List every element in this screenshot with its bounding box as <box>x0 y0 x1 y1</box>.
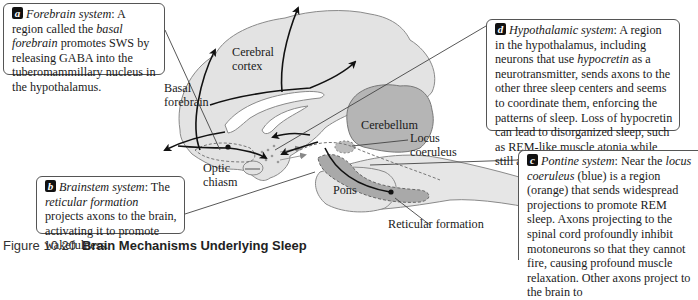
badge-a: a <box>12 7 23 19</box>
callout-b-text-1: : The <box>145 180 170 194</box>
label-cerebral-cortex-line2: cortex <box>232 60 274 74</box>
label-pons: Pons <box>333 184 357 198</box>
callout-pontine-system: cPontine system: Near the locus coeruleu… <box>518 150 698 260</box>
callout-hypothalamic-system: dHypothalamic system: A region in the hy… <box>486 19 680 131</box>
callout-brainstem-system: bBrainstem system: The reticular formati… <box>36 176 185 234</box>
label-optic-chiasm: Optic chiasm <box>203 162 238 189</box>
figure-number: Figure 10.20 <box>3 238 76 253</box>
callout-a-term: Forebrain system <box>26 7 111 21</box>
label-locus-coeruleus: Locus coeruleus <box>410 132 457 159</box>
figure-title: Brain Mechanisms Underlying Sleep <box>82 238 307 253</box>
label-optic-chiasm-line2: chiasm <box>203 176 238 190</box>
callout-c-text-1: : Near the <box>614 154 665 168</box>
label-basal-forebrain: Basal forebrain <box>164 82 209 109</box>
callout-d-italic: hypocretin <box>577 52 629 66</box>
figure-caption: Figure 10.20Brain Mechanisms Underlying … <box>3 238 307 253</box>
label-basal-forebrain-line1: Basal <box>164 82 209 96</box>
badge-d: d <box>495 23 506 35</box>
callout-b-term: Brainstem system <box>59 180 145 194</box>
label-locus-coeruleus-line1: Locus <box>410 132 457 146</box>
badge-b: b <box>45 180 56 192</box>
optic-chiasm-shape <box>243 161 263 175</box>
callout-forebrain-system: aForebrain system: A region called the b… <box>3 3 165 75</box>
label-basal-forebrain-line2: forebrain <box>164 96 209 110</box>
callout-c-text-2: (blue) is a region (orange) that sends w… <box>527 169 690 300</box>
callout-d-term: Hypothalamic system <box>509 23 614 37</box>
callout-c-term: Pontine system <box>541 154 614 168</box>
badge-c: c <box>527 154 538 166</box>
locus-coeruleus-shape <box>335 141 355 153</box>
label-cerebral-cortex: Cerebral cortex <box>232 46 274 73</box>
label-optic-chiasm-line1: Optic <box>203 162 238 176</box>
label-cerebral-cortex-line1: Cerebral <box>232 46 274 60</box>
label-locus-coeruleus-line2: coeruleus <box>410 146 457 160</box>
label-reticular-formation: Reticular formation <box>388 218 484 232</box>
callout-b-italic: reticular formation <box>45 195 138 209</box>
